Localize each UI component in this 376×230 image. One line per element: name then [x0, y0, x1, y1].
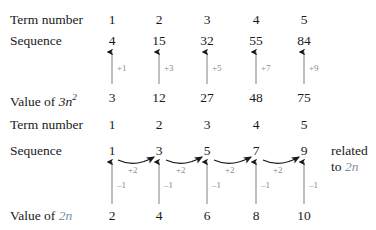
cell-term-number-bottom-5: 5	[291, 117, 317, 132]
side-note-line1: related	[331, 143, 368, 159]
curve-label-4: +2	[273, 165, 283, 175]
cell-value-3n2-4: 48	[243, 90, 269, 105]
gap-label-top-4: +7	[261, 63, 271, 73]
cell-value-2n-3: 6	[194, 208, 220, 223]
vertical-label-3: –1	[212, 180, 221, 190]
cell-sequence-bottom-2: 3	[146, 143, 172, 158]
cell-value-2n-2: 4	[146, 208, 172, 223]
row-label-value-3n2: Value of 3n2	[10, 90, 77, 109]
cell-term-number-bottom-4: 4	[243, 117, 269, 132]
cell-sequence-top-4: 55	[243, 33, 269, 48]
row-label-term-number-bottom: Term number	[10, 117, 83, 132]
cell-sequence-bottom-5: 9	[291, 143, 317, 158]
gap-label-top-2: +3	[164, 63, 174, 73]
row-label-value-2n-math: 2n	[59, 208, 73, 223]
sequence-diagram: Term number 1 2 3 4 5 Sequence 4 15 32 5…	[0, 0, 376, 230]
cell-value-3n2-1: 3	[99, 90, 125, 105]
vertical-label-2: –1	[164, 180, 173, 190]
cell-value-3n2-5: 75	[291, 90, 317, 105]
row-label-sequence-bottom: Sequence	[10, 143, 62, 158]
curve-label-3: +2	[225, 165, 235, 175]
gap-label-top-5: +9	[309, 63, 319, 73]
side-note-line2-math: 2n	[345, 159, 359, 174]
curve-label-2: +2	[176, 165, 186, 175]
side-note-line2: to 2n	[331, 159, 358, 175]
side-note-line2-prefix: to	[331, 159, 345, 174]
cell-value-3n2-2: 12	[146, 90, 172, 105]
cell-sequence-bottom-4: 7	[243, 143, 269, 158]
cell-value-3n2-3: 27	[194, 90, 220, 105]
row-label-sequence-top: Sequence	[10, 33, 62, 48]
cell-sequence-bottom-1: 1	[99, 143, 125, 158]
row-label-term-number-top: Term number	[10, 12, 83, 27]
row-label-value-3n2-exponent: 2	[72, 92, 77, 102]
cell-sequence-top-2: 15	[146, 33, 172, 48]
cell-term-number-top-5: 5	[291, 12, 317, 27]
cell-term-number-top-2: 2	[146, 12, 172, 27]
cell-sequence-top-3: 32	[194, 33, 220, 48]
cell-term-number-top-4: 4	[243, 12, 269, 27]
cell-value-2n-1: 2	[99, 208, 125, 223]
gap-label-top-1: +1	[117, 63, 127, 73]
cell-value-2n-4: 8	[243, 208, 269, 223]
cell-sequence-bottom-3: 5	[194, 143, 220, 158]
row-label-value-2n: Value of 2n	[10, 208, 72, 223]
cell-sequence-top-5: 84	[291, 33, 317, 48]
cell-term-number-top-1: 1	[99, 12, 125, 27]
gap-label-top-3: +5	[212, 63, 222, 73]
cell-sequence-top-1: 4	[99, 33, 125, 48]
cell-term-number-bottom-2: 2	[146, 117, 172, 132]
cell-term-number-top-3: 3	[194, 12, 220, 27]
cell-term-number-bottom-3: 3	[194, 117, 220, 132]
vertical-label-4: –1	[261, 180, 270, 190]
row-label-value-3n2-text: Value of	[10, 94, 59, 109]
vertical-label-5: –1	[309, 180, 318, 190]
vertical-label-1: –1	[117, 180, 126, 190]
curve-label-1: +2	[128, 165, 138, 175]
cell-value-2n-5: 10	[291, 208, 317, 223]
row-label-value-3n2-math: 3n	[59, 94, 73, 109]
cell-term-number-bottom-1: 1	[99, 117, 125, 132]
row-label-value-2n-text: Value of	[10, 208, 59, 223]
top-vertical-arrows	[112, 52, 304, 84]
